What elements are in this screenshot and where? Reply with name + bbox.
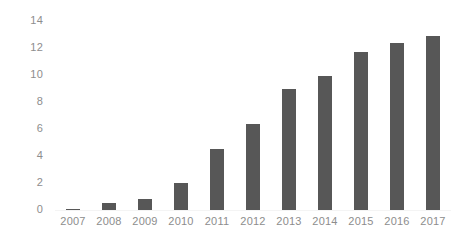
x-axis-tick-label-2017: 2017 <box>415 216 451 227</box>
bar-slot <box>379 21 415 210</box>
y-axis-tick-label: 12 <box>0 42 43 53</box>
x-axis-tick-label-2012: 2012 <box>235 216 271 227</box>
x-axis-tick-label-2013: 2013 <box>271 216 307 227</box>
bar-2013[interactable] <box>282 89 296 211</box>
bar-chart: 02468101214 2007200820092010201120122013… <box>0 0 459 245</box>
bar-slot <box>127 21 163 210</box>
x-axis-tick-label-2015: 2015 <box>343 216 379 227</box>
bar-slot <box>91 21 127 210</box>
bar-slot <box>415 21 451 210</box>
y-axis-tick-label: 6 <box>0 123 43 134</box>
bar-2007[interactable] <box>66 209 80 210</box>
x-axis-tick-label-2011: 2011 <box>199 216 235 227</box>
bar-2009[interactable] <box>138 199 152 210</box>
bar-2011[interactable] <box>210 149 224 210</box>
bar-slot <box>343 21 379 210</box>
x-axis-tick-label-2016: 2016 <box>379 216 415 227</box>
x-axis-tick-label-2009: 2009 <box>127 216 163 227</box>
bar-slot <box>307 21 343 210</box>
bar-2008[interactable] <box>102 203 116 210</box>
bar-2012[interactable] <box>246 124 260 210</box>
y-axis-tick-label: 14 <box>0 15 43 26</box>
y-axis-tick-label: 0 <box>0 204 43 215</box>
bar-2016[interactable] <box>390 43 404 210</box>
x-axis-tick-label-2010: 2010 <box>163 216 199 227</box>
y-axis-tick-label: 10 <box>0 69 43 80</box>
bar-2014[interactable] <box>318 76 332 210</box>
bar-slot <box>199 21 235 210</box>
plot-area <box>55 21 451 210</box>
x-axis-tick-label-2008: 2008 <box>91 216 127 227</box>
bar-2010[interactable] <box>174 183 188 210</box>
gridline <box>55 210 451 211</box>
y-axis-tick-label: 8 <box>0 96 43 107</box>
x-axis-tick-label-2007: 2007 <box>55 216 91 227</box>
bar-slot <box>55 21 91 210</box>
bar-2015[interactable] <box>354 52 368 210</box>
bar-slot <box>235 21 271 210</box>
y-axis-tick-label: 4 <box>0 150 43 161</box>
y-axis-tick-label: 2 <box>0 177 43 188</box>
bar-slot <box>271 21 307 210</box>
x-axis-tick-label-2014: 2014 <box>307 216 343 227</box>
bar-slot <box>163 21 199 210</box>
bar-2017[interactable] <box>426 36 440 210</box>
